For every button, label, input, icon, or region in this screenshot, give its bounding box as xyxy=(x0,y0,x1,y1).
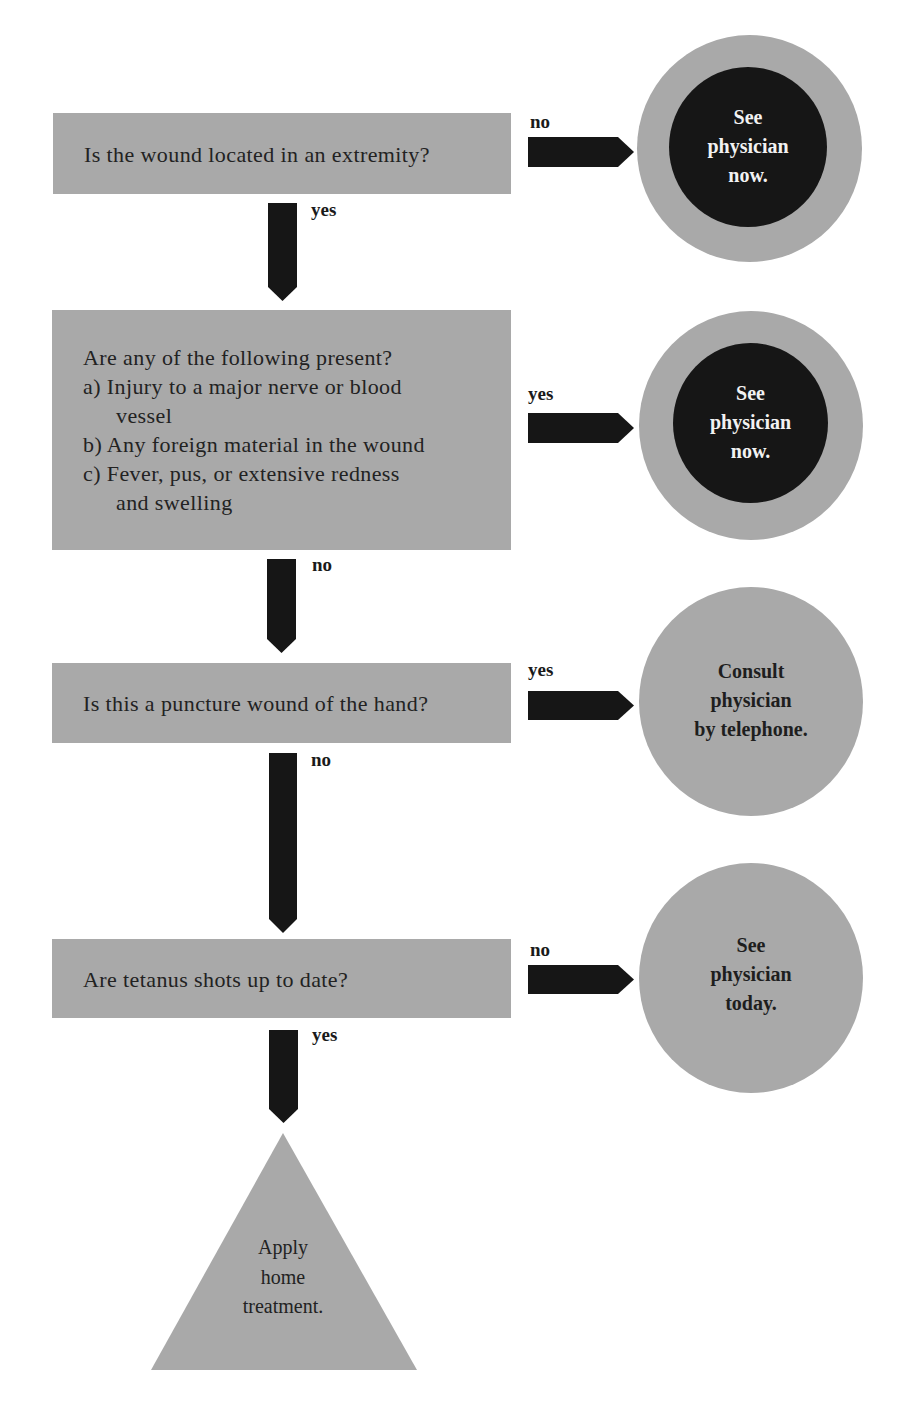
arrow-down-icon xyxy=(267,559,296,653)
branch-label-no: no xyxy=(530,940,550,960)
outcome-circle-see-physician-now: See physician now. xyxy=(639,311,863,540)
list-item-c: c) Fever, pus, or extensive redness xyxy=(83,459,425,488)
question-text: Is the wound located in an extremity? xyxy=(84,139,430,168)
arrow-down-icon xyxy=(269,1030,298,1123)
final-outcome-text: Apply home treatment. xyxy=(151,1233,415,1322)
branch-label-no: no xyxy=(312,555,332,575)
urgent-inner-circle: See physician now. xyxy=(673,343,828,503)
question-text: Are tetanus shots up to date? xyxy=(83,964,348,993)
arrow-right-icon xyxy=(528,691,634,720)
list-item-c-cont: and swelling xyxy=(83,488,425,517)
arrow-right-icon xyxy=(528,965,634,994)
outcome-text: See physician now. xyxy=(669,103,827,190)
question-box-tetanus: Are tetanus shots up to date? xyxy=(52,939,511,1018)
arrow-down-icon xyxy=(269,753,297,933)
urgent-inner-circle: See physician now. xyxy=(669,67,827,227)
list-item-b: b) Any foreign material in the wound xyxy=(83,430,425,459)
arrow-right-icon xyxy=(528,137,634,167)
question-title: Are any of the following present? xyxy=(83,343,425,372)
arrow-right-icon xyxy=(528,413,634,443)
outcome-circle-see-physician-today: See physician today. xyxy=(639,863,863,1093)
list-item-a: a) Injury to a major nerve or blood xyxy=(83,372,425,401)
list-item-a-cont: vessel xyxy=(83,401,425,430)
outcome-text: Consult physician by telephone. xyxy=(639,657,863,744)
question-text: Is this a puncture wound of the hand? xyxy=(83,689,428,718)
arrow-down-icon xyxy=(268,203,297,301)
branch-label-no: no xyxy=(530,112,550,132)
outcome-circle-see-physician-now: See physician now. xyxy=(637,35,862,262)
branch-label-yes: yes xyxy=(311,200,336,220)
outcome-circle-consult-telephone: Consult physician by telephone. xyxy=(639,587,863,816)
outcome-text: See physician today. xyxy=(639,931,863,1018)
branch-label-yes: yes xyxy=(528,384,553,404)
question-box-extremity: Is the wound located in an extremity? xyxy=(53,113,511,194)
branch-label-yes: yes xyxy=(528,660,553,680)
outcome-text: See physician now. xyxy=(673,379,828,466)
question-box-complications: Are any of the following present? a) Inj… xyxy=(52,310,511,550)
question-box-puncture: Is this a puncture wound of the hand? xyxy=(52,663,511,743)
branch-label-yes: yes xyxy=(312,1025,337,1045)
question-list: Are any of the following present? a) Inj… xyxy=(83,343,425,517)
branch-label-no: no xyxy=(311,750,331,770)
